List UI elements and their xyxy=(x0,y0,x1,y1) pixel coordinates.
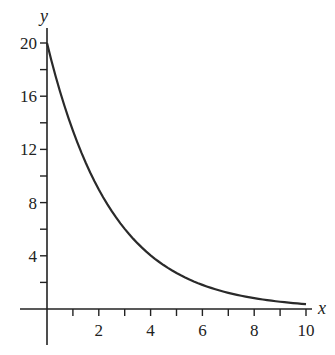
x-tick-label: 8 xyxy=(250,321,259,340)
x-axis-label: x xyxy=(317,298,326,318)
x-tick-label: 2 xyxy=(95,321,104,340)
y-tick-label: 16 xyxy=(20,87,37,106)
ticks xyxy=(40,43,306,316)
y-axis-label: y xyxy=(38,6,48,26)
x-tick-label: 6 xyxy=(198,321,207,340)
decay-chart: 24681048121620 x y xyxy=(0,0,335,355)
y-tick-label: 8 xyxy=(29,194,38,213)
tick-labels: 24681048121620 xyxy=(20,34,315,340)
decay-curve xyxy=(47,43,306,304)
x-tick-label: 4 xyxy=(146,321,155,340)
y-tick-label: 20 xyxy=(20,34,37,53)
y-tick-label: 4 xyxy=(29,247,38,266)
y-tick-label: 12 xyxy=(20,140,37,159)
axes xyxy=(20,28,312,345)
x-tick-label: 10 xyxy=(298,321,315,340)
